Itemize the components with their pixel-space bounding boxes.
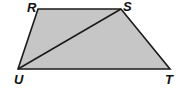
trapezoid-diagram: R S T U bbox=[0, 0, 192, 111]
trapezoid-rstu bbox=[18, 9, 170, 69]
vertex-label-u: U bbox=[14, 72, 24, 87]
diagram-canvas: R S T U bbox=[0, 0, 192, 111]
vertex-label-t: T bbox=[165, 72, 174, 87]
vertex-label-s: S bbox=[123, 0, 132, 14]
vertex-label-r: R bbox=[27, 0, 37, 15]
